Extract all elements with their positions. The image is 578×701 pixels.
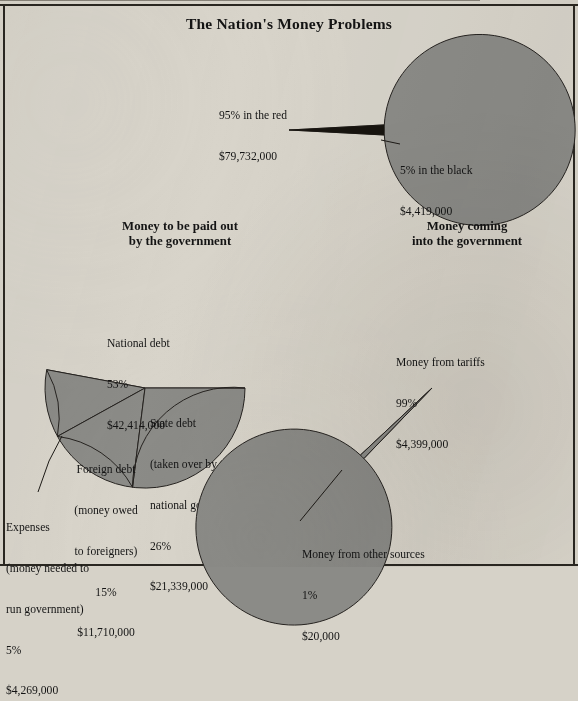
label-expenses-line5: $4,269,000 <box>6 684 89 698</box>
label-money-from-tariffs-line3: $4,399,000 <box>396 438 485 452</box>
label-money-from-other-sources: Money from other sources 1% $20,000 <box>302 521 425 671</box>
label-money-from-tariffs: Money from tariffs 99% $4,399,000 <box>396 329 485 479</box>
label-money-from-tariffs-line1: Money from tariffs <box>396 356 485 370</box>
label-money-from-other-sources-line3: $20,000 <box>302 630 425 644</box>
label-money-from-other-sources-line1: Money from other sources <box>302 548 425 562</box>
label-money-from-other-sources-line2: 1% <box>302 589 425 603</box>
label-expenses-line4: 5% <box>6 644 89 658</box>
label-expenses-line3: run government) <box>6 603 89 617</box>
label-money-from-tariffs-line2: 99% <box>396 397 485 411</box>
